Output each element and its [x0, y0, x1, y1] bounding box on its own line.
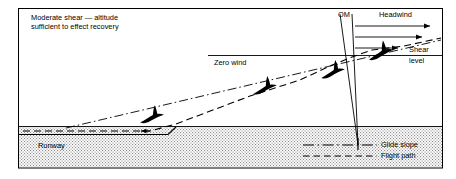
ground-region: [19, 126, 442, 168]
figure-title: Moderate shear — altitude sufficient to …: [31, 14, 119, 31]
runway-label: Runway: [38, 142, 65, 151]
zero-wind-label: Zero wind: [214, 59, 246, 68]
headwind-label: Headwind: [379, 11, 412, 20]
outer-marker-label: OM: [338, 11, 350, 20]
shear-level-label: level: [409, 57, 424, 66]
legend-label-flight-path: Flight path: [381, 152, 416, 161]
legend-label-glide-slope: Glide slope: [381, 141, 418, 150]
shear-label: Shear: [409, 46, 429, 55]
figure-canvas: Moderate shear — altitude sufficient to …: [0, 0, 456, 179]
flight-path-line: [23, 38, 441, 131]
